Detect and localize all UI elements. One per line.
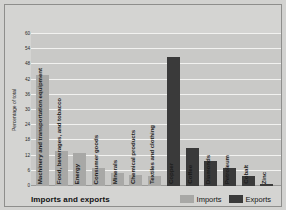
y-tick-label-48: 48 (25, 62, 30, 67)
bar-slot: Machinery and transportation equipment (35, 34, 54, 186)
bar[interactable] (111, 173, 124, 186)
bar-slot: Consumer goods (91, 34, 110, 186)
bar[interactable] (73, 153, 86, 186)
bar[interactable] (204, 161, 217, 186)
bar-slot: Chemical products (128, 34, 147, 186)
y-tick-label-0: 0 (27, 184, 30, 189)
bar-group: Machinery and transportation equipmentFo… (31, 34, 281, 186)
y-tick-label-42: 42 (25, 77, 30, 82)
bar[interactable] (55, 151, 68, 186)
bar-slot: Petroleum (222, 34, 241, 186)
bar-slot: Diamonds (203, 34, 222, 186)
y-axis-title-text: Percentage of total (11, 89, 17, 131)
bar[interactable] (129, 175, 142, 186)
figure-frame: Percentage of total 06121824303642485460… (4, 4, 282, 207)
chart-footer: Imports and exports Imports Exports (31, 191, 271, 207)
bar[interactable] (223, 168, 236, 186)
y-tick-label-12: 12 (25, 153, 30, 158)
legend-label-exports: Exports (246, 195, 271, 204)
legend-swatch-imports (180, 195, 194, 203)
y-tick-label-30: 30 (25, 108, 30, 113)
bar[interactable] (167, 57, 180, 186)
y-tick-label-6: 6 (27, 169, 30, 174)
y-axis-ticks: 06121824303642485460 (17, 34, 30, 186)
bar[interactable] (260, 184, 273, 186)
legend-swatch-exports (229, 195, 243, 203)
bar-slot: Food, beverages, and tobacco (54, 34, 73, 186)
y-tick-label-18: 18 (25, 138, 30, 143)
bar[interactable] (148, 176, 161, 186)
y-tick-label-36: 36 (25, 93, 30, 98)
bar-category-label: Zinc (261, 172, 267, 184)
legend-item-imports: Imports (180, 195, 222, 204)
y-tick-label-60: 60 (25, 32, 30, 37)
bar-slot: Coffee (185, 34, 204, 186)
x-axis-title: Imports and exports (31, 195, 110, 204)
bar[interactable] (242, 176, 255, 186)
bar[interactable] (36, 75, 49, 186)
plot-area: Machinery and transportation equipmentFo… (31, 34, 281, 186)
y-tick-label-54: 54 (25, 47, 30, 52)
figure-container: Percentage of total 06121824303642485460… (0, 0, 286, 210)
bar-slot: Cobalt (241, 34, 260, 186)
bar-slot: Minerals (110, 34, 129, 186)
bar[interactable] (92, 168, 105, 186)
bar[interactable] (186, 148, 199, 186)
bar-slot: Textiles and clothing (147, 34, 166, 186)
bar-slot: Zinc (259, 34, 278, 186)
y-tick-label-24: 24 (25, 123, 30, 128)
legend-label-imports: Imports (197, 195, 222, 204)
bar-slot: Copper (166, 34, 185, 186)
legend: Imports Exports (180, 195, 271, 204)
legend-item-exports: Exports (229, 195, 271, 204)
bar-slot: Energy (72, 34, 91, 186)
